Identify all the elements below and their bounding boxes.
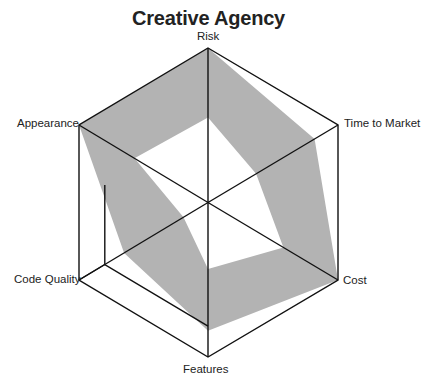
axis-label-risk: Risk	[197, 30, 219, 42]
axis-label-appearance: Appearance	[17, 117, 79, 129]
radar-chart	[0, 0, 425, 392]
axis-label-code-quality: Code Quality	[14, 273, 80, 285]
axis-label-time-to-market: Time to Market	[344, 117, 420, 129]
axis-label-cost: Cost	[343, 274, 367, 286]
axis-label-features: Features	[183, 363, 228, 375]
